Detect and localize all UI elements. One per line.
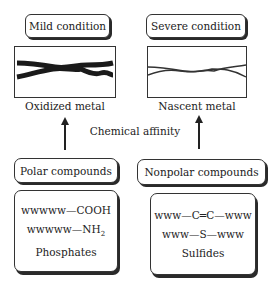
oxidized-metal-illustration — [14, 46, 116, 98]
formula-alkene: www—C═C—www — [154, 209, 251, 221]
polar-compounds-label: Polar compounds — [14, 158, 118, 183]
phosphates-label: Phosphates — [35, 246, 96, 258]
nascent-metal-caption: Nascent metal — [147, 100, 247, 112]
chemical-affinity-label: Chemical affinity — [80, 125, 190, 137]
nonpolar-compounds-label: Nonpolar compounds — [137, 159, 266, 185]
mild-condition-label: Mild condition — [25, 14, 110, 38]
polar-compounds-examples: wwwww—COOH wwwww—NH2 Phosphates — [14, 190, 118, 272]
polar-compounds-text: Polar compounds — [20, 165, 112, 177]
nonpolar-compounds-examples: www—C═C—www www—S—www Sulfides — [150, 193, 256, 275]
mild-condition-text: Mild condition — [29, 20, 106, 32]
nascent-metal-illustration — [147, 46, 247, 98]
thin-wavy-lines-icon — [148, 47, 246, 97]
sulfides-label: Sulfides — [182, 247, 225, 259]
severe-condition-label: Severe condition — [146, 14, 246, 38]
formula-nh2: wwwww—NH2 — [27, 223, 105, 238]
up-arrow-left-icon — [64, 124, 66, 150]
thick-wavy-lines-icon — [15, 47, 115, 97]
nonpolar-compounds-text: Nonpolar compounds — [144, 166, 258, 178]
up-arrow-right-icon — [198, 122, 200, 149]
oxidized-metal-caption: Oxidized metal — [14, 100, 116, 112]
formula-sulfide: www—S—www — [162, 228, 244, 240]
formula-cooh: wwwww—COOH — [21, 204, 111, 216]
severe-condition-text: Severe condition — [151, 20, 241, 32]
